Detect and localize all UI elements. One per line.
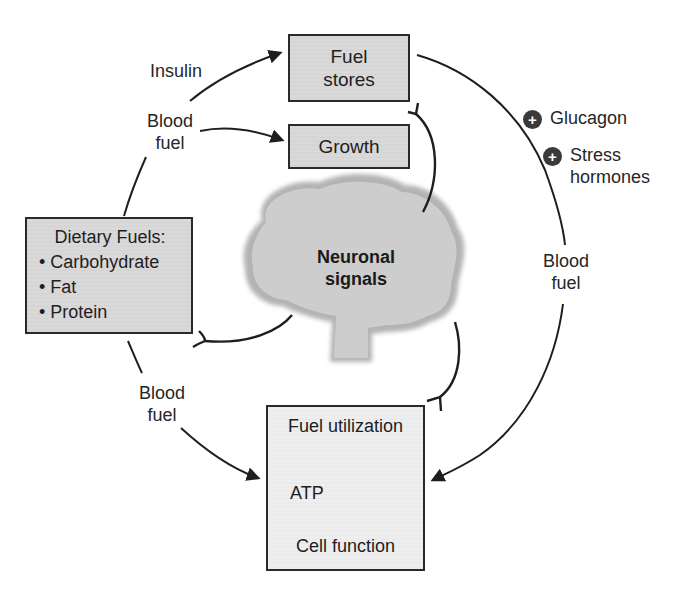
neuronal-signals-label: Neuronal signals xyxy=(300,246,412,290)
stress-label: Stress xyxy=(570,145,621,165)
blood-fuel-top-line2: fuel xyxy=(140,132,200,154)
blood-fuel-top-line1: Blood xyxy=(140,110,200,132)
cell-function-label: Cell function xyxy=(268,535,423,558)
glucagon-label: Glucagon xyxy=(550,108,627,128)
dietary-fuels-list: Carbohydrate Fat Protein xyxy=(39,250,191,325)
growth-box: Growth xyxy=(288,124,410,169)
plus-icon: + xyxy=(523,110,542,129)
metabolic-regulation-diagram: Fuel stores Growth Dietary Fuels: Carboh… xyxy=(0,0,696,599)
dietary-fuel-item: Protein xyxy=(39,300,191,325)
neuronal-signals-line1: Neuronal xyxy=(300,246,412,268)
fuel-stores-label-line2: stores xyxy=(290,68,408,91)
dietary-fuels-title: Dietary Fuels: xyxy=(39,225,191,250)
neuronal-signals-line2: signals xyxy=(300,268,412,290)
blood-fuel-right-line1: Blood xyxy=(536,250,596,272)
dietary-fuel-item: Carbohydrate xyxy=(39,250,191,275)
glucagon-modulator: +Glucagon xyxy=(523,107,627,129)
fuel-stores-label-line1: Fuel xyxy=(290,45,408,68)
fuel-utilization-title: Fuel utilization xyxy=(268,415,423,438)
stress-hormones-modulator: +Stress hormones xyxy=(543,144,650,188)
blood-fuel-bottom-label: Blood fuel xyxy=(132,382,192,426)
figure-caption-clipped xyxy=(0,586,696,599)
fuel-utilization-box: Fuel utilization ATP Cell function xyxy=(266,405,425,571)
blood-fuel-right-label: Blood fuel xyxy=(536,250,596,294)
dietary-fuels-box: Dietary Fuels: Carbohydrate Fat Protein xyxy=(25,217,193,334)
dietary-fuel-item: Fat xyxy=(39,275,191,300)
blood-fuel-right-line2: fuel xyxy=(536,272,596,294)
hormones-label: hormones xyxy=(543,166,650,188)
growth-label: Growth xyxy=(290,135,408,158)
blood-fuel-bottom-line2: fuel xyxy=(132,404,192,426)
blood-fuel-top-label: Blood fuel xyxy=(140,110,200,154)
fuel-stores-box: Fuel stores xyxy=(288,34,410,102)
atp-label: ATP xyxy=(290,482,324,505)
insulin-label: Insulin xyxy=(150,60,202,82)
plus-icon: + xyxy=(543,147,562,166)
blood-fuel-bottom-line1: Blood xyxy=(132,382,192,404)
